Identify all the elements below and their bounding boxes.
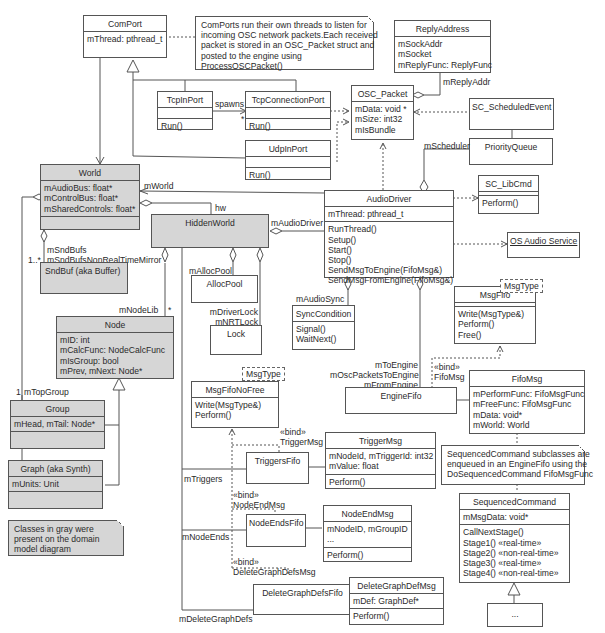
- class-udpinport[interactable]: UdpInPort Run(): [245, 140, 331, 180]
- class-node[interactable]: Node mID: int mCalcFunc: NodeCalcFunc mI…: [56, 316, 174, 379]
- class-world[interactable]: World mAudioBus: float* mControlBus: flo…: [40, 164, 140, 230]
- class-name: SC_LibCmd: [479, 176, 538, 192]
- attributes: mNodeID, mGroupID ...: [324, 522, 411, 547]
- label-mlocks: mDriverLock mNRTLock: [206, 307, 258, 327]
- class-audiodriver[interactable]: AudioDriver mThread: pthread_t RunThread…: [324, 190, 454, 278]
- class-msgfifo[interactable]: MsgFifo Write(MsgType&) Perform() Free(): [454, 286, 536, 344]
- class-priorityqueue[interactable]: PriorityQueue: [469, 138, 553, 165]
- attributes: mMsgData: void*: [460, 510, 569, 525]
- class-synccondition[interactable]: SyncCondition Signal() WaitNext(): [292, 305, 355, 350]
- label-mtriggers: mTriggers: [184, 474, 222, 484]
- class-name: TriggersFifo: [247, 453, 308, 468]
- class-name: World: [41, 165, 139, 181]
- class-tcpconnectionport[interactable]: TcpConnectionPort Run(): [245, 91, 331, 130]
- class-name: SC_ScheduledEvent: [470, 99, 553, 114]
- class-hiddenworld[interactable]: HiddenWorld: [151, 214, 269, 248]
- class-msgfifonofree[interactable]: MsgFifoNoFree Write(MsgType&) Perform(): [191, 381, 279, 428]
- class-group[interactable]: Group mHead, mTail: Node*: [10, 400, 105, 449]
- class-comport[interactable]: ComPort mThread: pthread_t: [83, 15, 167, 58]
- class-name: Lock: [211, 326, 261, 341]
- attributes: mPerformFunc: FifoMsgFunc mFreeFunc: Fif…: [470, 387, 584, 432]
- class-nodeendmsg[interactable]: NodeEndMsg mNodeID, mGroupID ... Perform…: [323, 505, 412, 562]
- operations: RunThread() Setup() Start() Stop() SendM…: [325, 222, 453, 287]
- operations: Signal() WaitNext(): [293, 322, 354, 346]
- class-name: MsgFifoNoFree: [192, 382, 278, 398]
- class-name: DeleteGraphDefMsg: [350, 578, 443, 594]
- class-sc-libcmd[interactable]: SC_LibCmd Perform(): [478, 175, 539, 214]
- label-maudiosync: mAudioSync: [296, 294, 344, 304]
- class-name: AudioDriver: [325, 191, 453, 207]
- attributes: mUnits: Unit: [9, 477, 102, 492]
- class-deletegraphdefsfifo[interactable]: DeleteGraphDefsFifo: [253, 584, 352, 615]
- label-mdeletegraphdefs: mDeleteGraphDefs: [179, 614, 253, 624]
- class-name: Group: [11, 401, 104, 417]
- class-deletegraphdefmsg[interactable]: DeleteGraphDefMsg mDef: GraphDef* Perfor…: [349, 577, 444, 625]
- operations: Write(MsgType&) Perform() Free(): [455, 307, 535, 342]
- class-replyaddress[interactable]: ReplyAddress mSockAddr mSocket mReplyFun…: [394, 20, 491, 73]
- note-comport: ComPorts run their own threads to listen…: [195, 16, 374, 70]
- class-os-audio-service[interactable]: OS Audio Service: [507, 232, 580, 258]
- class-name: FifoMsg: [470, 371, 584, 387]
- class-osc-packet[interactable]: OSC_Packet mData: void * mSize: int32 mI…: [351, 85, 414, 140]
- label-multiplicity-star: *: [241, 114, 244, 124]
- operations: CallNextStage() Stage1() «real-time» Sta…: [460, 525, 569, 580]
- class-name: SyncCondition: [293, 306, 354, 322]
- label-multiplicity-star-2: *: [168, 305, 171, 315]
- class-name: OS Audio Service: [508, 233, 579, 248]
- class-name: OSC_Packet: [352, 86, 413, 102]
- class-sequencedcommand-subclass[interactable]: ...: [487, 603, 543, 627]
- attributes: mData: void * mSize: int32 mIsBundle: [352, 102, 413, 137]
- operations: [9, 492, 102, 502]
- class-name: EngineFifo: [346, 388, 456, 403]
- class-fifomsg[interactable]: FifoMsg mPerformFunc: FifoMsgFunc mFreeF…: [469, 370, 585, 434]
- class-nodeendsfifo[interactable]: NodeEndsFifo: [246, 514, 306, 547]
- class-name: NodeEndsFifo: [247, 515, 305, 530]
- label-spawns: spawns: [215, 99, 244, 109]
- class-name: HiddenWorld: [152, 215, 268, 230]
- class-name: PriorityQueue: [470, 139, 552, 154]
- template-param-msgtype-2: MsgType: [242, 367, 285, 381]
- label-engine-roles: mToEngine mOscPacketsToEngine mFromEngin…: [330, 360, 418, 390]
- operations: Write(MsgType&) Perform(): [192, 398, 278, 422]
- attributes: mSockAddr mSocket mReplyFunc: ReplyFunc: [395, 37, 490, 72]
- class-sequencedcommand[interactable]: SequencedCommand mMsgData: void* CallNex…: [459, 493, 570, 583]
- class-name: SequencedCommand: [460, 494, 569, 510]
- label-hw: hw: [215, 203, 226, 213]
- class-name: Node: [57, 317, 173, 333]
- label-bind-fifomsg: «bind» FifoMsg: [434, 362, 465, 382]
- label-mworld: mWorld: [144, 181, 173, 191]
- note-legend: Classes in gray were present on the doma…: [8, 520, 124, 556]
- operations: Run(): [158, 119, 212, 133]
- attributes: mAudioBus: float* mControlBus: float* mS…: [41, 181, 139, 217]
- attributes: [158, 108, 212, 119]
- label-maudiodriver: mAudioDriver: [271, 218, 323, 228]
- class-name: UdpInPort: [246, 141, 330, 157]
- class-allocpool[interactable]: AllocPool: [191, 275, 258, 303]
- label-bind-triggermsg: «bind» TriggerMsg: [280, 427, 323, 447]
- label-mtopgroup: mTopGroup: [24, 387, 69, 397]
- attributes: mDef: GraphDef*: [350, 594, 443, 609]
- label-multiplicity-1: 1: [16, 387, 21, 397]
- operations: Perform(): [326, 475, 435, 489]
- attributes: mHead, mTail: Node*: [11, 417, 104, 432]
- label-mnodeends: mNodeEnds: [182, 532, 229, 542]
- class-tcpinport[interactable]: TcpInPort Run(): [157, 91, 213, 130]
- class-name: TcpConnectionPort: [246, 92, 330, 108]
- class-name: DeleteGraphDefsFifo: [254, 585, 351, 600]
- class-name: SndBuf (aka Buffer): [41, 263, 127, 278]
- class-graph[interactable]: Graph (aka Synth) mUnits: Unit: [8, 460, 103, 509]
- class-triggersfifo[interactable]: TriggersFifo: [246, 452, 309, 484]
- operations: Perform(): [324, 548, 411, 562]
- class-sndbuf[interactable]: SndBuf (aka Buffer): [40, 262, 128, 294]
- attributes: mThread: pthread_t: [84, 32, 166, 46]
- class-triggermsg[interactable]: TriggerMsg mNodeId, mTriggerId: int32 mV…: [325, 432, 436, 489]
- label-multiplicity-1-many: 1..*: [28, 255, 41, 265]
- class-name: TriggerMsg: [326, 433, 435, 449]
- class-name: Graph (aka Synth): [9, 461, 102, 477]
- attributes: mNodeId, mTriggerId: int32 mValue: float: [326, 449, 435, 474]
- class-sc-scheduledevent[interactable]: SC_ScheduledEvent: [469, 98, 554, 130]
- label-mscheduler: mScheduler: [424, 141, 470, 151]
- class-enginefifo[interactable]: EngineFifo: [345, 387, 457, 414]
- operations: [57, 379, 173, 389]
- class-lock[interactable]: Lock: [210, 325, 262, 355]
